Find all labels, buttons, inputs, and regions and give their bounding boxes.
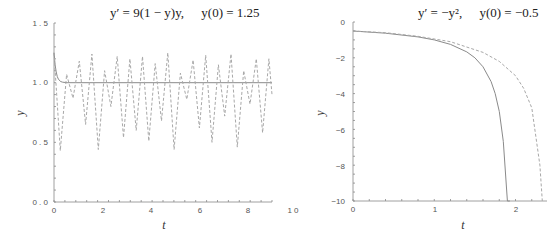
left-ytick-0.5: 0 . 5 <box>32 138 48 147</box>
right-exact-solution-line <box>353 31 510 201</box>
left-xtick-10: 1 0 <box>287 206 299 215</box>
left-exact-solution-line <box>54 53 272 83</box>
left-chart: y′ = 9(1 − y)y, y(0) = 1.25 1 . 5 1 . 0 … <box>13 5 299 232</box>
left-numerical-dashed-line <box>54 53 272 151</box>
right-xlabel: t <box>461 218 465 232</box>
left-title-equation: y′ = 9(1 − y)y, <box>110 5 184 20</box>
left-xtick-8: 8 <box>246 206 251 215</box>
right-title-initial-condition: y(0) = −0.5 <box>479 5 538 20</box>
right-xtick-1: 1 <box>433 205 438 214</box>
left-chart-title: y′ = 9(1 − y)y, y(0) = 1.25 <box>110 5 260 20</box>
right-ylabel: y <box>313 110 327 117</box>
left-xtick-6: 6 <box>198 206 203 215</box>
left-xtick-0: 0 <box>52 206 57 215</box>
right-xtick-0: 0 <box>351 205 356 214</box>
left-xtick-4: 4 <box>149 206 154 215</box>
figure-canvas: y′ = 9(1 − y)y, y(0) = 1.25 1 . 5 1 . 0 … <box>0 0 547 240</box>
left-ytick-0.0: 0 . 0 <box>32 198 48 207</box>
right-numerical-dashed-line <box>353 31 542 201</box>
right-ytick-minus2: −2 <box>336 54 346 63</box>
figure: y′ = 9(1 − y)y, y(0) = 1.25 1 . 5 1 . 0 … <box>0 0 547 240</box>
right-axes <box>353 22 547 201</box>
right-ytick-minus8: −8 <box>336 162 346 171</box>
right-ytick-0: 0 <box>341 18 346 27</box>
left-ytick-1.5: 1 . 5 <box>32 19 48 28</box>
left-ylabel: y <box>13 110 27 117</box>
right-xtick-2: 2 <box>514 205 519 214</box>
left-xlabel: t <box>162 218 166 232</box>
right-ytick-minus10: −10 <box>331 197 345 206</box>
left-title-initial-condition: y(0) = 1.25 <box>201 5 259 20</box>
right-ytick-minus4: −4 <box>336 90 346 99</box>
right-chart: y′ = −y², y(0) = −0.5 0 −2 −4 −6 −8 −10 … <box>313 5 547 232</box>
right-ytick-minus6: −6 <box>336 126 346 135</box>
right-title-equation: y′ = −y², <box>418 5 462 20</box>
left-xtick-2: 2 <box>101 206 106 215</box>
right-chart-title: y′ = −y², y(0) = −0.5 <box>418 5 538 20</box>
left-ytick-1.0: 1 . 0 <box>32 78 48 87</box>
